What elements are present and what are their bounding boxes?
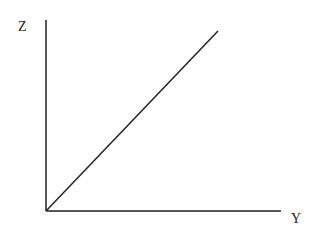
diagonal-line <box>46 31 218 211</box>
z-axis-label: Z <box>18 20 27 34</box>
y-axis-label: Y <box>291 212 301 226</box>
axes-diagram <box>0 0 311 243</box>
